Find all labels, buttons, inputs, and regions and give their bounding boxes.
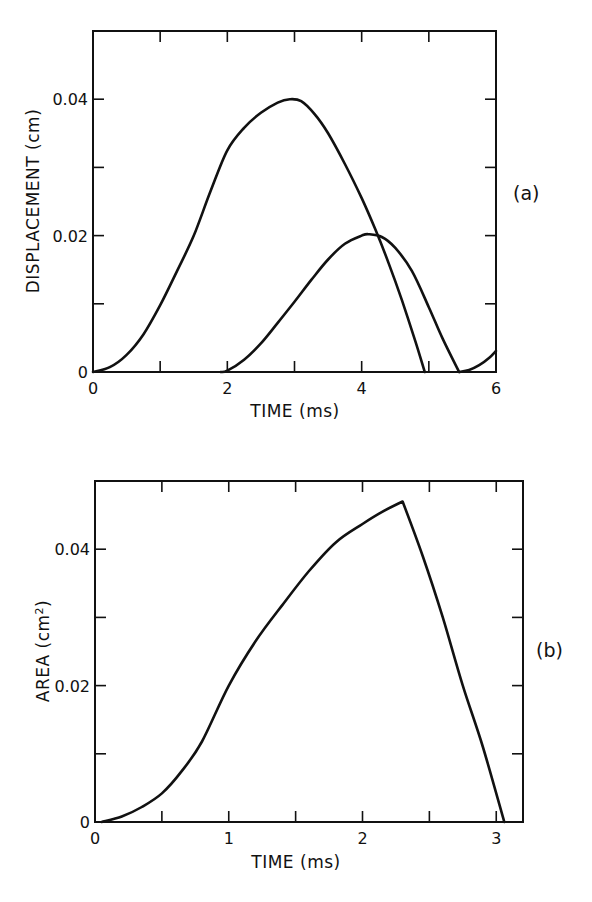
y-tick-label: 0 bbox=[80, 813, 90, 832]
y-tick-label: 0.04 bbox=[54, 540, 90, 559]
chart-b-x-axis-title: TIME (ms) bbox=[250, 852, 340, 872]
x-tick-label: 1 bbox=[224, 829, 234, 848]
x-tick-label: 2 bbox=[222, 379, 232, 398]
chart-b-frame bbox=[95, 481, 523, 822]
chart-a-x-axis-title: TIME (ms) bbox=[249, 401, 339, 421]
chart-b-ticks bbox=[95, 481, 523, 822]
y-tick-label: 0.04 bbox=[52, 90, 88, 109]
chart-b-curves bbox=[102, 502, 505, 823]
curve-area bbox=[102, 502, 505, 823]
chart-b-y-axis-title-superscript: 2 bbox=[33, 607, 46, 615]
figure: 024600.020.04 TIME (ms) DISPLACEMENT (cm… bbox=[0, 0, 592, 902]
chart-a-tick-labels: 024600.020.04 bbox=[52, 90, 501, 398]
x-tick-label: 3 bbox=[491, 829, 501, 848]
chart-b-y-axis-title-base: AREA (cm bbox=[33, 614, 53, 702]
chart-b-area: 012300.020.04 TIME (ms) AREA (cm2) (b) bbox=[33, 481, 563, 872]
curve-curve-3 bbox=[459, 351, 496, 372]
chart-a-curves bbox=[93, 99, 496, 372]
chart-b-tick-labels: 012300.020.04 bbox=[54, 540, 501, 848]
x-tick-label: 6 bbox=[491, 379, 501, 398]
chart-a-panel-label: (a) bbox=[513, 182, 539, 204]
chart-a-y-axis-title: DISPLACEMENT (cm) bbox=[23, 109, 43, 294]
x-tick-label: 0 bbox=[88, 379, 98, 398]
x-tick-label: 0 bbox=[90, 829, 100, 848]
x-tick-label: 2 bbox=[357, 829, 367, 848]
chart-b-panel-label: (b) bbox=[536, 639, 563, 661]
chart-b-y-axis-title-suffix: ) bbox=[33, 600, 53, 607]
y-tick-label: 0 bbox=[78, 363, 88, 382]
y-tick-label: 0.02 bbox=[54, 677, 90, 696]
chart-b-y-axis-title: AREA (cm2) bbox=[33, 600, 54, 702]
curve-curve-2 bbox=[221, 234, 460, 372]
y-tick-label: 0.02 bbox=[52, 227, 88, 246]
chart-a-displacement: 024600.020.04 TIME (ms) DISPLACEMENT (cm… bbox=[23, 31, 539, 421]
x-tick-label: 4 bbox=[357, 379, 367, 398]
